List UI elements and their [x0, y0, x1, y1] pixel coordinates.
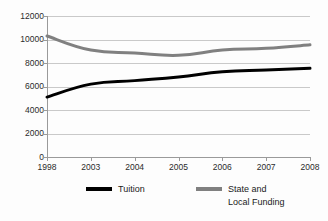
- gridline: [47, 110, 310, 111]
- x-axis-tick-mark: [91, 157, 92, 161]
- legend-label-tuition: Tuition: [118, 183, 145, 196]
- x-axis-tick-mark: [266, 157, 267, 161]
- y-axis-tick-label: 4000: [0, 106, 44, 115]
- x-axis-tick-label: 2004: [115, 162, 155, 172]
- legend-swatch-tuition: [86, 187, 112, 191]
- chart-legend: Tuition State and Local Funding: [0, 183, 328, 221]
- x-axis-tick-mark: [310, 157, 311, 161]
- y-axis-tick-label: 2000: [0, 129, 44, 138]
- x-axis-tick-mark: [135, 157, 136, 161]
- x-axis-tick-label: 2005: [159, 162, 199, 172]
- y-axis-tick-label: 8000: [0, 59, 44, 68]
- y-axis-tick-mark: [43, 87, 47, 88]
- legend-swatch-state-and-local-funding: [196, 187, 222, 191]
- plot-area: [47, 16, 310, 157]
- gridline: [47, 134, 310, 135]
- legend-label-state-and-local-funding: State and Local Funding: [228, 183, 285, 208]
- y-axis-tick-mark: [43, 110, 47, 111]
- gridline: [47, 40, 310, 41]
- y-axis-tick-label: 6000: [0, 82, 44, 91]
- gridline: [47, 63, 310, 64]
- gridline: [47, 16, 310, 17]
- y-axis-tick-mark: [43, 134, 47, 135]
- x-axis-tick-label: 2008: [290, 162, 328, 172]
- gridline: [47, 87, 310, 88]
- y-axis-tick-mark: [43, 63, 47, 64]
- line-chart: 020004000600080001000012000 199820032004…: [0, 0, 328, 221]
- y-axis-tick-label: 10000: [0, 35, 44, 44]
- y-axis-line: [47, 16, 48, 158]
- y-axis-tick-label: 12000: [0, 12, 44, 21]
- x-axis-tick-label: 2007: [246, 162, 286, 172]
- x-axis-tick-mark: [179, 157, 180, 161]
- x-axis-tick-label: 2006: [202, 162, 242, 172]
- legend-entry-tuition[interactable]: Tuition: [86, 183, 145, 196]
- x-axis-tick-mark: [222, 157, 223, 161]
- x-axis-tick-label: 1998: [27, 162, 67, 172]
- x-axis-tick-label: 2003: [71, 162, 111, 172]
- y-axis-tick-mark: [43, 16, 47, 17]
- legend-entry-state-and-local-funding[interactable]: State and Local Funding: [196, 183, 285, 208]
- y-axis-tick-label: 0: [0, 153, 44, 162]
- y-axis-tick-mark: [43, 40, 47, 41]
- x-axis-tick-mark: [47, 157, 48, 161]
